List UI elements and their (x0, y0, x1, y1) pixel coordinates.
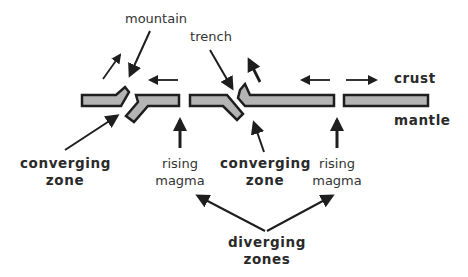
mantle-label: mantle (394, 112, 451, 129)
trench-pointer-arrow (210, 50, 232, 88)
rising-magma-left-label: rising magma (150, 155, 210, 189)
plate-4-up-motion-arrow (249, 60, 260, 82)
trench-label: trench (186, 28, 236, 45)
crust-label: crust (394, 70, 436, 87)
diverging-left-pointer-arrow (198, 196, 265, 231)
plate-5 (344, 95, 428, 106)
converging-zone-left-label: converging zone (20, 155, 110, 189)
converging-left-pointer-arrow (65, 116, 117, 150)
plate-1 (82, 87, 129, 106)
converging-zone-right-line2: zone (220, 172, 310, 189)
mountain-pointer-arrow (130, 31, 150, 75)
rising-magma-left-line1: rising (150, 155, 210, 172)
converging-zone-right-label: converging zone (220, 155, 310, 189)
converging-zone-right-line1: converging (220, 155, 310, 172)
rising-magma-left-line2: magma (150, 172, 210, 189)
diverging-zones-label: diverging zones (222, 234, 312, 268)
diverging-right-pointer-arrow (267, 196, 332, 231)
diverging-zones-line2: zones (222, 251, 312, 268)
rising-magma-right-line1: rising (307, 155, 367, 172)
mountain-label: mountain (118, 10, 194, 27)
diverging-zones-line1: diverging (222, 234, 312, 251)
plates (82, 84, 428, 122)
rising-magma-right-label: rising magma (307, 155, 367, 189)
plate-2 (126, 95, 179, 122)
plate-1-motion-arrow (103, 55, 120, 79)
plate-4 (238, 84, 334, 106)
rising-magma-right-line2: magma (307, 172, 367, 189)
converging-zone-left-line2: zone (20, 172, 110, 189)
converging-zone-left-line1: converging (20, 155, 110, 172)
plate-3 (190, 95, 243, 120)
plate-tectonics-diagram: mountain trench crust mantle converging … (0, 0, 468, 277)
converging-right-pointer-arrow (254, 123, 264, 152)
